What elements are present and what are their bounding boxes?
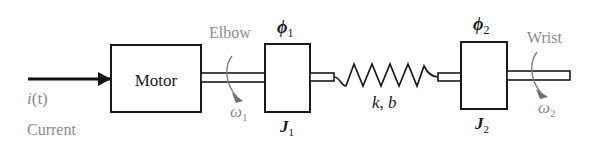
spring-damper-coupling [334, 64, 438, 86]
motor-label: Motor [135, 71, 178, 90]
inertia-2-box [461, 42, 507, 109]
wrist-angular-velocity-label: ω2 [538, 98, 556, 119]
current-label: Current [27, 121, 76, 138]
wrist-shaft [507, 71, 570, 80]
inertia-1-label: J1 [279, 117, 294, 138]
inertia-1-stub [310, 73, 334, 81]
elbow-label: Elbow [209, 24, 251, 41]
inertia-1-box [265, 44, 310, 112]
inertia-2-label: J2 [474, 114, 489, 135]
elbow-angular-velocity-label: ω1 [230, 102, 248, 123]
inertia-2-angle-label: ϕ2 [473, 14, 489, 37]
input-current-arrow [28, 72, 111, 86]
input-signal-label: i(t) [27, 89, 48, 108]
inertia-1-angle-label: ϕ1 [277, 17, 293, 40]
coupling-label: k, b [372, 93, 397, 112]
wrist-label: Wrist [527, 29, 562, 46]
motor-elbow-wrist-diagram: i(t) Current Motor Elbow ω1 ϕ1 J1 k, b ϕ… [0, 0, 591, 151]
inertia-2-stub [438, 73, 461, 81]
elbow-shaft [201, 73, 265, 82]
